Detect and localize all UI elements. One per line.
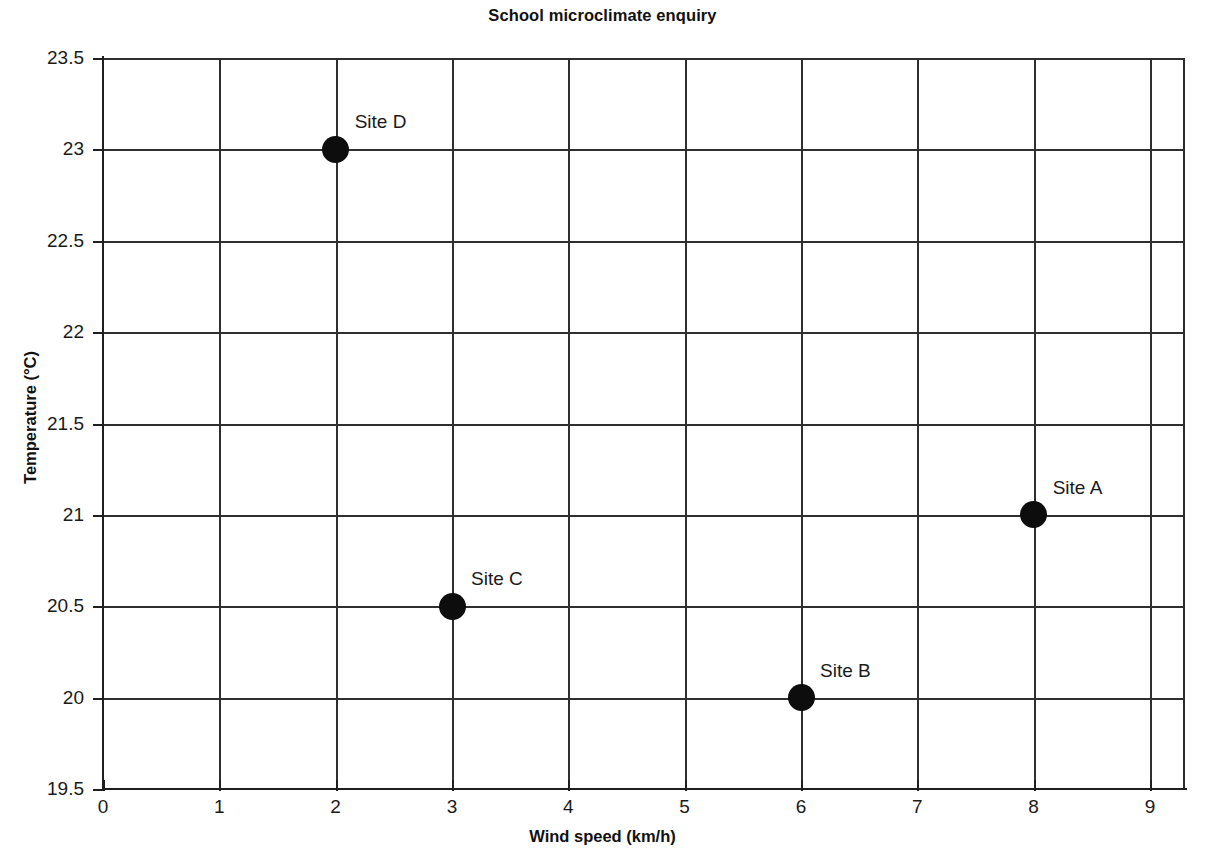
x-axis-tick-label: 2 (306, 797, 366, 816)
y-axis-tick (93, 332, 104, 334)
scatter-chart: School microclimate enquiry Site ASite B… (0, 0, 1205, 855)
gridline-horizontal (103, 424, 1185, 426)
gridline-horizontal (103, 332, 1185, 334)
y-axis-tick (93, 58, 104, 60)
y-axis-tick-label: 22.5 (47, 231, 84, 250)
x-axis-tick-label: 1 (189, 797, 249, 816)
y-axis-tick (93, 606, 104, 608)
x-axis-tick (1034, 780, 1036, 791)
x-axis-tick (219, 780, 221, 791)
gridline-horizontal (103, 606, 1185, 608)
data-point-label: Site D (355, 112, 407, 131)
gridline-horizontal (103, 241, 1185, 243)
data-point-label: Site A (1053, 478, 1103, 497)
x-axis-tick (452, 780, 454, 791)
y-axis-tick-label: 23.5 (47, 48, 84, 67)
plot-area: Site ASite BSite CSite D (103, 58, 1185, 789)
y-axis-tick (93, 424, 104, 426)
x-axis-line (102, 788, 1187, 790)
data-point-marker[interactable] (322, 136, 349, 163)
x-axis-tick (103, 780, 105, 791)
gridline-horizontal (103, 698, 1185, 700)
x-axis-tick (917, 780, 919, 791)
x-axis-tick-label: 0 (73, 797, 133, 816)
data-point-marker[interactable] (1020, 501, 1047, 528)
x-axis-tick (336, 780, 338, 791)
x-axis-tick-label: 4 (538, 797, 598, 816)
y-axis-tick-label: 21 (63, 505, 84, 524)
x-axis-tick-label: 8 (1004, 797, 1064, 816)
y-axis-tick (93, 515, 104, 517)
x-axis-tick (801, 780, 803, 791)
y-axis-tick-label: 19.5 (47, 779, 84, 798)
gridline-horizontal (103, 58, 1185, 60)
x-axis-tick (685, 780, 687, 791)
data-point-marker[interactable] (788, 684, 815, 711)
x-axis-tick-label: 9 (1120, 797, 1180, 816)
y-axis-tick-label: 20 (63, 688, 84, 707)
x-axis-tick (1150, 780, 1152, 791)
y-axis-tick-label: 20.5 (47, 596, 84, 615)
x-axis-title: Wind speed (km/h) (0, 827, 1205, 846)
x-axis-tick-label: 7 (887, 797, 947, 816)
data-point-label: Site B (820, 661, 871, 680)
y-axis-title: Temperature (°C) (21, 288, 40, 548)
data-point-marker[interactable] (439, 593, 466, 620)
data-point-label: Site C (471, 569, 523, 588)
x-axis-tick-label: 5 (655, 797, 715, 816)
y-axis-tick (93, 241, 104, 243)
x-axis-tick-label: 6 (771, 797, 831, 816)
x-axis-tick-label: 3 (422, 797, 482, 816)
gridline-horizontal (103, 149, 1185, 151)
y-axis-tick (93, 149, 104, 151)
y-axis-tick-label: 23 (63, 139, 84, 158)
x-axis-tick (568, 780, 570, 791)
y-axis-tick (93, 698, 104, 700)
y-axis-tick-label: 22 (63, 322, 84, 341)
y-axis-tick-label: 21.5 (47, 414, 84, 433)
chart-title: School microclimate enquiry (0, 6, 1205, 25)
